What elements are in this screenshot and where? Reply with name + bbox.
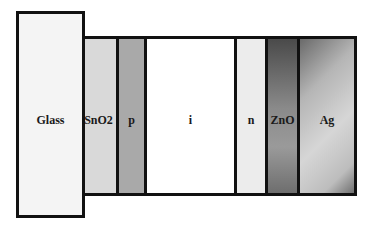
layer-n-label: n	[237, 113, 265, 128]
layer-stack: SnO2 p i n ZnO Ag	[81, 36, 357, 196]
layer-p-label: p	[119, 113, 144, 128]
layer-ag-label: Ag	[300, 113, 354, 128]
layer-ag: Ag	[300, 39, 354, 193]
layer-p: p	[119, 39, 147, 193]
layer-zno-label: ZnO	[268, 113, 297, 128]
layer-i: i	[147, 39, 237, 193]
solar-cell-layer-diagram: Glass SnO2 p i n ZnO Ag	[0, 0, 370, 228]
glass-label: Glass	[19, 113, 82, 128]
layer-zno: ZnO	[268, 39, 300, 193]
layer-i-label: i	[147, 113, 234, 128]
layer-sno2: SnO2	[81, 39, 119, 193]
layer-sno2-label: SnO2	[81, 113, 116, 128]
layer-n: n	[237, 39, 268, 193]
glass-substrate: Glass	[16, 11, 85, 218]
